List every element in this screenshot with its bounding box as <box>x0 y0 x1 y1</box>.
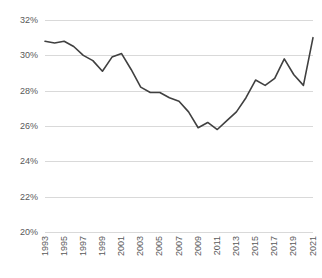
x-axis-tick-label: 2007 <box>175 236 184 256</box>
x-axis-tick-label: 2021 <box>309 236 318 256</box>
x-axis-tick-label: 2015 <box>251 236 260 256</box>
y-axis-tick-label: 28% <box>20 86 38 95</box>
x-axis-tick-label: 2001 <box>117 236 126 256</box>
x-axis-tick-label: 1995 <box>60 236 69 256</box>
y-axis-tick-label: 32% <box>20 16 38 25</box>
y-axis-tick-label: 20% <box>20 228 38 237</box>
y-axis: 32%30%28%26%24%22%20% <box>0 0 45 252</box>
x-axis-tick-label: 2009 <box>194 236 203 256</box>
x-axis-tick-label: 2005 <box>155 236 164 256</box>
x-axis-tick-label: 2011 <box>213 236 222 255</box>
series-line-group <box>45 20 313 232</box>
x-axis-tick-label: 2017 <box>270 236 279 256</box>
x-axis-tick-label: 1999 <box>98 236 107 256</box>
series-line <box>45 38 313 130</box>
x-axis-tick-label: 2013 <box>232 236 241 256</box>
x-axis-tick-label: 2003 <box>136 236 145 256</box>
x-axis: 1993199519971999200120032005200720092011… <box>45 236 313 278</box>
x-axis-tick-label: 2019 <box>289 236 298 256</box>
line-chart: 32%30%28%26%24%22%20% 199319951997199920… <box>0 0 322 278</box>
x-axis-tick-label: 1997 <box>79 236 88 256</box>
gridline <box>45 232 313 233</box>
x-axis-tick-label: 1993 <box>41 236 50 256</box>
y-axis-tick-label: 24% <box>20 157 38 166</box>
y-axis-tick-label: 30% <box>20 51 38 60</box>
y-axis-tick-label: 26% <box>20 122 38 131</box>
y-axis-tick-label: 22% <box>20 192 38 201</box>
plot-area <box>45 20 313 232</box>
